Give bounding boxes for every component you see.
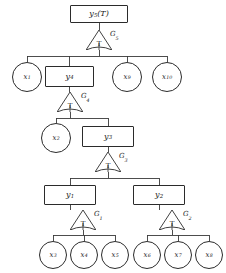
node-label-subscript: 1: [28, 76, 31, 81]
gate-label-G4: G4: [81, 93, 90, 101]
node-label-subscript: 2: [160, 194, 163, 199]
gate-G5[interactable]: T: [86, 30, 112, 50]
node-label-subscript: 6: [148, 254, 151, 259]
gate-label-G5: G5: [110, 31, 119, 39]
gate-G4[interactable]: T: [57, 92, 83, 112]
node-label-subscript: 4: [85, 254, 88, 259]
intermediate-event-y3[interactable]: y3: [82, 126, 134, 147]
basic-event-x4[interactable]: x4: [70, 241, 98, 269]
node-label-subscript: 7: [179, 254, 182, 259]
node-label-subscript: 3: [109, 135, 112, 140]
basic-event-x2[interactable]: x2: [41, 123, 71, 153]
node-label-subscript: 5: [94, 13, 97, 18]
intermediate-event-y2[interactable]: y2: [133, 185, 185, 205]
gate-label-subscript: 2: [189, 215, 192, 221]
node-label-subscript: 10: [166, 76, 172, 81]
gate-label-base: G: [183, 210, 189, 218]
intermediate-event-y1[interactable]: y1: [44, 185, 96, 205]
gate-label-base: G: [94, 210, 100, 218]
basic-event-x7[interactable]: x7: [164, 241, 192, 269]
node-label-subscript: 4: [70, 75, 73, 80]
intermediate-event-y4[interactable]: y4: [45, 66, 94, 87]
basic-event-x1[interactable]: x1: [12, 62, 42, 92]
basic-event-x3[interactable]: x3: [39, 241, 67, 269]
gate-label-G3: G3: [119, 153, 128, 161]
node-label-subscript: 9: [128, 76, 131, 81]
gate-label-subscript: 5: [116, 35, 119, 41]
intermediate-event-y5[interactable]: y5(T): [70, 5, 128, 23]
gate-label-base: G: [110, 30, 116, 38]
node-label-subscript: 2: [57, 137, 60, 142]
gate-type-letter: T: [57, 92, 83, 112]
gate-label-G2: G2: [183, 211, 192, 219]
gate-G1[interactable]: T: [70, 210, 96, 230]
gate-label-G1: G1: [94, 211, 103, 219]
node-label-subscript: 1: [71, 194, 74, 199]
fault-tree-diagram: y5(T)x1y4x9x10x2y3y1y2x3x4x5x6x7x8 TG5TG…: [0, 0, 226, 273]
basic-event-x6[interactable]: x6: [133, 241, 161, 269]
gate-type-letter: T: [159, 210, 185, 230]
gate-type-letter: T: [70, 210, 96, 230]
basic-event-x10[interactable]: x10: [152, 62, 182, 92]
basic-event-x8[interactable]: x8: [195, 241, 223, 269]
gate-label-base: G: [81, 92, 87, 100]
node-label-subscript: 8: [210, 254, 213, 259]
basic-event-x9[interactable]: x9: [112, 62, 142, 92]
gate-G3[interactable]: T: [95, 152, 121, 172]
gate-G2[interactable]: T: [159, 210, 185, 230]
basic-event-x5[interactable]: x5: [101, 241, 129, 269]
gate-type-letter: T: [86, 30, 112, 50]
gate-label-subscript: 3: [125, 157, 128, 163]
gate-label-base: G: [119, 152, 125, 160]
node-label-subscript: 3: [54, 254, 57, 259]
node-label-suffix: (T): [97, 10, 109, 18]
gate-type-letter: T: [95, 152, 121, 172]
gate-label-subscript: 4: [87, 97, 90, 103]
node-label-subscript: 5: [116, 254, 119, 259]
gate-label-subscript: 1: [100, 215, 103, 221]
